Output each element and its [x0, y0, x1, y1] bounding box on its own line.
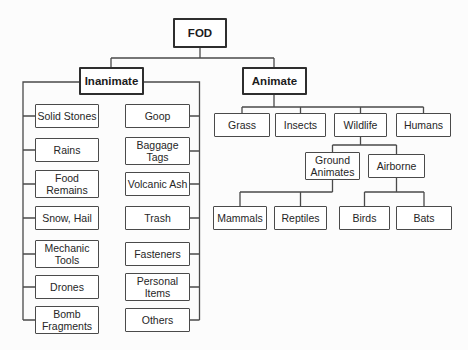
node-food-remains: Food Remains	[35, 170, 99, 198]
connector-root-branch	[111, 48, 274, 67]
fod-classification-diagram: FOD Inanimate Animate Solid Stones Rains…	[0, 0, 468, 350]
connector-animate-children	[242, 95, 424, 113]
node-birds: Birds	[339, 206, 390, 230]
node-wildlife: Wildlife	[334, 113, 387, 137]
connector-ground-animates-children	[240, 180, 333, 206]
node-humans: Humans	[396, 113, 451, 137]
node-drones: Drones	[35, 275, 99, 299]
node-goop: Goop	[125, 104, 190, 128]
node-bomb-fragments: Bomb Fragments	[35, 306, 99, 334]
node-baggage-tags: Baggage Tags	[125, 137, 190, 165]
node-fod: FOD	[173, 18, 227, 48]
node-inanimate: Inanimate	[79, 67, 144, 95]
node-airborne: Airborne	[368, 154, 425, 178]
node-rains: Rains	[35, 138, 99, 162]
connector-airborne-children	[365, 178, 425, 206]
node-volcanic-ash: Volcanic Ash	[125, 172, 190, 196]
node-mechanic-tools: Mechanic Tools	[35, 240, 99, 268]
node-ground-animates: Ground Animates	[305, 152, 360, 180]
node-solid-stones: Solid Stones	[35, 104, 99, 128]
node-reptiles: Reptiles	[274, 206, 327, 230]
node-mammals: Mammals	[213, 206, 267, 230]
node-animate: Animate	[242, 67, 307, 95]
node-snow-hail: Snow, Hail	[35, 206, 99, 230]
node-others: Others	[125, 308, 190, 332]
node-grass: Grass	[214, 113, 270, 137]
node-fasteners: Fasteners	[125, 242, 190, 266]
node-personal-items: Personal Items	[125, 273, 190, 301]
node-bats: Bats	[396, 206, 452, 230]
node-trash: Trash	[125, 206, 190, 230]
node-insects: Insects	[275, 113, 326, 137]
